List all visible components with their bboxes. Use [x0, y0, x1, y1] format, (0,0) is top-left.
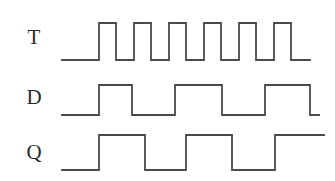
waveform-trace-q — [62, 135, 324, 170]
waveform-trace-d — [62, 85, 319, 115]
timing-diagram-page: T D Q — [0, 0, 335, 181]
timing-diagram-canvas — [0, 0, 335, 181]
waveform-trace-t — [62, 23, 310, 60]
